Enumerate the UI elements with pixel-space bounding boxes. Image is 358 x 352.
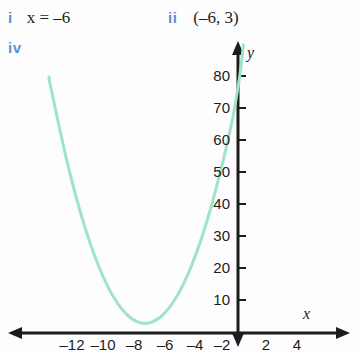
x-axis-arrow-left-icon (8, 327, 22, 339)
y-tick-label-40: 40 (196, 195, 230, 212)
parabola-plot (0, 0, 358, 352)
x-tick-label-neg8: –8 (117, 336, 151, 352)
x-axis-title: x (303, 305, 310, 323)
x-tick-label-neg12: –12 (55, 336, 89, 352)
y-tick-label-80: 80 (196, 67, 230, 84)
y-axis-title: y (247, 44, 254, 62)
x-tick-label-neg10: –10 (86, 336, 120, 352)
x-tick-label-neg2: –2 (205, 336, 239, 352)
y-tick-label-60: 60 (196, 131, 230, 148)
y-tick-label-10: 10 (196, 291, 230, 308)
x-tick-label-2: 2 (249, 336, 283, 352)
y-tick-label-70: 70 (196, 99, 230, 116)
axes-group (8, 41, 350, 347)
parabola-curve (49, 45, 244, 323)
y-tick-label-50: 50 (196, 163, 230, 180)
figure-container: ix = –6 ii(–6, 3) iv y x 80 70 (0, 0, 358, 352)
x-axis-arrow-right-icon (336, 327, 350, 339)
x-tick-label-neg6: –6 (148, 336, 182, 352)
x-tick-label-4: 4 (280, 336, 314, 352)
y-tick-label-30: 30 (196, 227, 230, 244)
y-tick-label-20: 20 (196, 259, 230, 276)
